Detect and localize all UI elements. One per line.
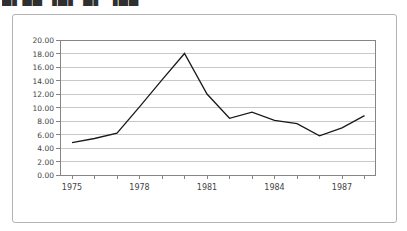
x-axis-label: 1978: [129, 183, 149, 192]
cropped-title-fragment: ▄▖▄▄ ▗▄▖ ▄▖ ▗▄▄: [2, 0, 162, 6]
screenshot-root: ▄▖▄▄ ▗▄▖ ▄▖ ▗▄▄ 0.002.004.006.008.0010.0…: [0, 0, 407, 231]
y-axis-label: 18.00: [33, 50, 55, 59]
x-axis-label: 1981: [197, 183, 217, 192]
x-axis-label: 1984: [264, 183, 284, 192]
y-axis-label: 2.00: [37, 158, 54, 167]
cropped-title-text: ▄▖▄▄ ▗▄▖ ▄▖ ▗▄▄: [2, 0, 162, 6]
y-axis-label: 14.00: [33, 77, 55, 86]
x-axis-label: 1987: [332, 183, 352, 192]
line-chart: 0.002.004.006.008.0010.0012.0014.0016.00…: [13, 15, 396, 222]
x-axis-label: 1975: [62, 183, 82, 192]
y-axis-label: 16.00: [33, 63, 55, 72]
y-axis-label: 0.00: [37, 171, 54, 180]
y-axis-label: 4.00: [37, 144, 54, 153]
y-axis-label: 8.00: [37, 117, 54, 126]
y-axis-label: 20.00: [33, 36, 55, 45]
y-axis-label: 12.00: [33, 90, 55, 99]
y-axis-label: 10.00: [33, 104, 55, 113]
y-axis-label: 6.00: [37, 131, 54, 140]
chart-card: 0.002.004.006.008.0010.0012.0014.0016.00…: [12, 14, 397, 223]
